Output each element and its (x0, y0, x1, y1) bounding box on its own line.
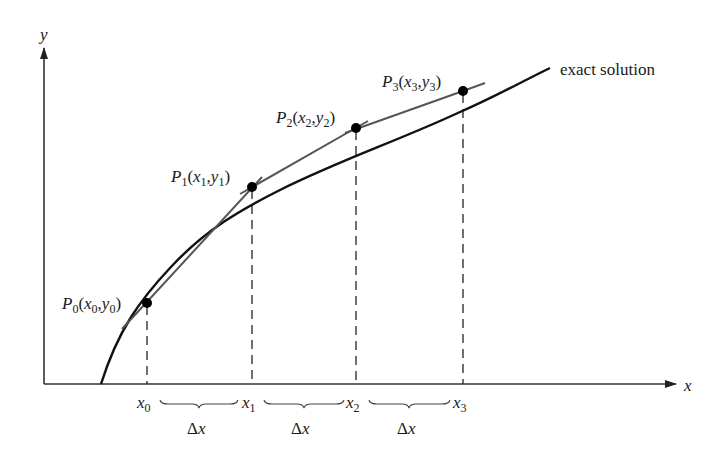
step-braces (160, 400, 450, 408)
point-p0 (142, 298, 152, 308)
point-label-p1: P1(x1,y1) (170, 167, 230, 189)
exact-solution-label: exact solution (560, 60, 655, 79)
step-label-2: Δx (291, 419, 310, 438)
tick-label-x2: x2 (345, 393, 360, 415)
segment-p0-p1 (122, 177, 262, 329)
point-p1 (247, 182, 257, 192)
step-label-3: Δx (397, 419, 416, 438)
y-axis-label: y (38, 25, 48, 44)
point-p3 (458, 86, 468, 96)
tick-label-x0: x0 (136, 393, 151, 415)
dashed-guides (147, 94, 463, 384)
step-label-1: Δx (187, 419, 206, 438)
euler-method-diagram: y x P0(x0,y0) P1(x1,y1) P2(x2,y2) P3(x3,… (0, 0, 725, 464)
brace-step-2 (264, 400, 344, 408)
segment-p2-p3 (345, 91, 463, 133)
point-label-p3: P3(x3,y3) (381, 72, 441, 94)
brace-step-3 (369, 400, 450, 408)
brace-step-1 (160, 400, 238, 408)
point-p2 (351, 123, 361, 133)
tick-label-x1: x1 (241, 393, 256, 415)
point-label-p2: P2(x2,y2) (275, 108, 335, 130)
tick-label-x3: x3 (452, 393, 467, 415)
point-label-p0: P0(x0,y0) (61, 294, 121, 316)
x-axis-label: x (683, 376, 692, 395)
